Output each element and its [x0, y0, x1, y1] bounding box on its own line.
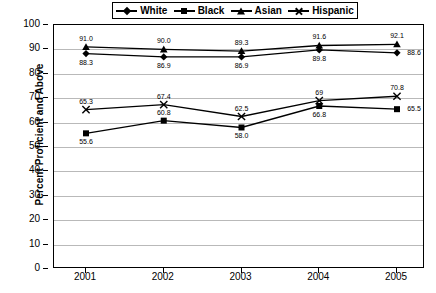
- data-label-black-2001: 55.6: [79, 138, 93, 145]
- x-axis-tick: [318, 268, 319, 273]
- y-axis-tick-label: 80: [0, 68, 40, 78]
- triangle-marker-icon: [231, 10, 252, 12]
- square-marker-icon: [83, 130, 89, 136]
- square-marker-icon: [394, 106, 400, 112]
- diamond-marker-icon: [238, 53, 245, 60]
- data-label-hispanic-2004: 69: [315, 89, 323, 96]
- legend-item-white: White: [116, 6, 167, 16]
- diamond-marker-icon: [116, 10, 137, 12]
- data-label-hispanic-2001: 65.3: [79, 98, 93, 105]
- x-marker-icon: [288, 10, 309, 12]
- data-label-black-2004: 66.8: [312, 111, 326, 118]
- y-axis-tick: [43, 195, 48, 196]
- x-axis-tick: [396, 268, 397, 273]
- legend-label-white: White: [140, 6, 167, 16]
- data-label-black-2005: 65.5: [407, 105, 421, 112]
- data-label-asian-2002: 90.0: [157, 37, 171, 44]
- data-label-asian-2001: 91.0: [79, 35, 93, 42]
- x-axis-tick-label: 2005: [385, 272, 407, 282]
- x-axis-tick: [241, 268, 242, 273]
- data-label-white-2001: 88.3: [79, 59, 93, 66]
- square-marker-icon: [316, 103, 322, 109]
- data-label-asian-2003: 89.3: [235, 39, 249, 46]
- legend-item-black: Black: [174, 6, 225, 16]
- data-label-asian-2004: 91.6: [312, 33, 326, 40]
- data-label-white-2003: 86.9: [235, 62, 249, 69]
- square-marker-icon: [174, 10, 195, 12]
- square-marker-icon: [161, 118, 167, 124]
- data-label-hispanic-2005: 70.8: [390, 84, 404, 91]
- legend-label-hispanic: Hispanic: [312, 6, 354, 16]
- data-label-asian-2005: 92.1: [390, 32, 404, 39]
- y-axis-tick: [43, 48, 48, 49]
- y-axis-tick: [43, 219, 48, 220]
- legend-item-hispanic: Hispanic: [288, 6, 354, 16]
- y-axis-tick-label: 90: [0, 43, 40, 53]
- y-axis-tick-label: 70: [0, 92, 40, 102]
- y-axis-tick: [43, 97, 48, 98]
- square-marker-icon: [239, 124, 245, 130]
- y-axis-tick-label: 20: [0, 214, 40, 224]
- x-axis-tick-label: 2004: [307, 272, 329, 282]
- chart-legend: White Black Asian Hispanic: [112, 2, 358, 19]
- diamond-marker-icon: [82, 50, 89, 57]
- y-axis-tick: [43, 73, 48, 74]
- y-axis-tick: [43, 24, 48, 25]
- x-axis-tick: [85, 268, 86, 273]
- x-axis-tick-label: 2001: [74, 272, 96, 282]
- y-axis-tick: [43, 146, 48, 147]
- y-axis-tick-label: 0: [0, 263, 40, 273]
- legend-item-asian: Asian: [231, 6, 282, 16]
- data-label-hispanic-2003: 62.5: [235, 105, 249, 112]
- x-axis-tick-label: 2002: [152, 272, 174, 282]
- y-axis-tick-label: 30: [0, 190, 40, 200]
- diamond-marker-icon: [160, 53, 167, 60]
- data-label-black-2002: 60.8: [157, 109, 171, 116]
- y-axis-tick: [43, 122, 48, 123]
- y-axis-tick-label: 50: [0, 141, 40, 151]
- x-axis: 20012002200320042005: [53, 272, 424, 288]
- legend-label-asian: Asian: [255, 6, 282, 16]
- data-label-hispanic-2002: 67.4: [157, 93, 171, 100]
- y-axis-tick-label: 10: [0, 239, 40, 249]
- data-label-white-2005: 88.6: [407, 49, 421, 56]
- plot-area: 88.386.986.989.888.655.660.858.066.865.5…: [53, 24, 424, 268]
- y-axis-tick: [43, 244, 48, 245]
- y-axis-tick-label: 40: [0, 165, 40, 175]
- y-axis-tick-label: 100: [0, 19, 40, 29]
- diamond-marker-icon: [393, 49, 400, 56]
- x-axis-tick: [163, 268, 164, 273]
- y-axis-tick: [43, 268, 48, 269]
- y-axis: 0102030405060708090100: [0, 24, 48, 268]
- data-label-black-2003: 58.0: [235, 132, 249, 139]
- y-axis-tick: [43, 170, 48, 171]
- x-axis-tick-label: 2003: [229, 272, 251, 282]
- y-axis-tick-label: 60: [0, 117, 40, 127]
- data-label-white-2004: 89.8: [312, 55, 326, 62]
- legend-label-black: Black: [198, 6, 225, 16]
- data-label-white-2002: 86.9: [157, 62, 171, 69]
